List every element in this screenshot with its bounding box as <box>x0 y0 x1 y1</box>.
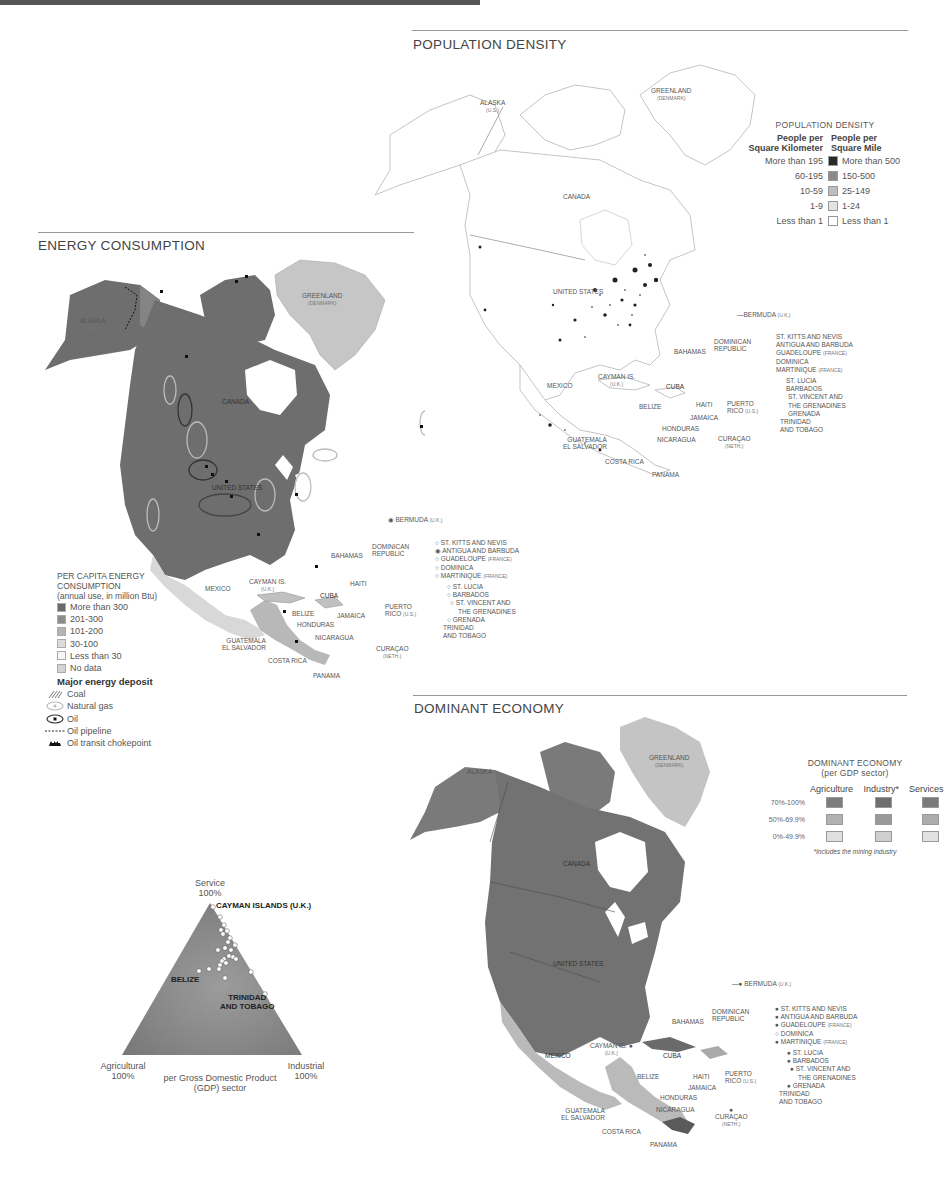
label-greenland: GREENLAND(DENMARK) <box>302 292 342 307</box>
label-dominican-republic: DOMINICANREPUBLIC <box>372 543 409 557</box>
label-united-states: UNITED STATES <box>553 288 603 295</box>
label-canada: CANADA <box>222 398 249 405</box>
legend-row: More than 300 <box>57 601 217 613</box>
label-puerto-rico: PUERTORICO (U.S.) <box>727 400 758 415</box>
population-density-legend: POPULATION DENSITY People perSquare Kilo… <box>735 120 915 228</box>
label-honduras: HONDURAS <box>662 425 699 432</box>
label-guatemala: GUATEMALAEL SALVADOR <box>561 1107 605 1121</box>
label-canada: CANADA <box>563 860 590 867</box>
legend-row: 0%-49.9% <box>760 828 949 845</box>
natural-gas-icon <box>45 701 65 711</box>
label-united-states: UNITED STATES <box>212 484 262 491</box>
legend-row: 10-5925-149 <box>735 183 915 198</box>
label-curacao: ●CURAÇAO(NETH.) <box>715 1106 748 1128</box>
label-guatemala: GUATEMALAEL SALVADOR <box>563 436 607 450</box>
label-bermuda: —BERMUDA (U.K.) <box>737 311 791 319</box>
chokepoint-icon <box>45 739 65 747</box>
label-belize: BELIZE <box>637 1073 659 1080</box>
label-jamaica: JAMAICA <box>337 612 365 619</box>
pipeline-icon <box>45 728 65 734</box>
label-belize: BELIZE <box>292 610 314 617</box>
callout-belize: BELIZE <box>171 975 199 984</box>
label-greenland: GREENLAND(DENMARK) <box>651 87 691 102</box>
legend-row: 101-200 <box>57 625 217 637</box>
label-jamaica: JAMAICA <box>690 414 718 421</box>
label-cuba: CUBA <box>663 1052 681 1059</box>
label-canada: CANADA <box>563 193 590 200</box>
label-haiti: HAITI <box>693 1073 710 1080</box>
label-jamaica: JAMAICA <box>688 1084 716 1091</box>
legend-row: 201-300 <box>57 613 217 625</box>
apex-agricultural-label: Agricultural100% <box>88 1061 158 1081</box>
label-cuba: CUBA <box>666 383 684 390</box>
label-puerto-rico: PUERTORICO (U.S.) <box>725 1070 756 1085</box>
legend-row: 1-91-24 <box>735 198 915 213</box>
section-divider <box>412 30 908 31</box>
legend-headers: People perSquare Kilometer People perSqu… <box>735 133 915 153</box>
callout-cayman-islands: CAYMAN ISLANDS (U.K.) <box>216 901 311 910</box>
label-bahamas: BAHAMAS <box>672 1018 704 1025</box>
legend-row: 60-195150-500 <box>735 168 915 183</box>
label-honduras: HONDURAS <box>297 621 334 628</box>
section-divider <box>38 232 414 233</box>
legend-row: Less than 1Less than 1 <box>735 213 915 228</box>
label-haiti: HAITI <box>696 401 713 408</box>
legend-subtitle: (annual use, in million Btu) <box>57 591 217 601</box>
label-puerto-rico: PUERTORICO (U.S.) <box>385 603 416 618</box>
label-mexico: MEXICO <box>545 1052 571 1059</box>
label-dominican-republic: DOMINICANREPUBLIC <box>712 1008 749 1022</box>
legend-row: 50%-69.9% <box>760 811 949 828</box>
label-belize: BELIZE <box>639 403 661 410</box>
legend-footnote: *Includes the mining industry <box>760 848 949 855</box>
label-panama: PANAMA <box>652 471 679 478</box>
legend-row: Less than 30 <box>57 650 217 662</box>
section-divider <box>413 695 907 696</box>
label-alaska: ALASKA(U.S.) <box>480 99 505 114</box>
legend-row: No data <box>57 662 217 674</box>
label-bahamas: BAHAMAS <box>331 552 363 559</box>
label-eastern-caribbean: ST. KITTS AND NEVIS ANTIGUA AND BARBUDA … <box>776 333 853 434</box>
legend-title: PER CAPITA ENERGYCONSUMPTION <box>57 571 217 591</box>
label-eastern-caribbean: ● ST. KITTS AND NEVIS ● ANTIGUA AND BARB… <box>775 1005 857 1106</box>
legend-row: 30-100 <box>57 638 217 650</box>
label-bermuda: —● BERMUDA (U.K.) <box>732 980 791 988</box>
label-cayman: CAYMAN IS. ●(U.K.) <box>590 1042 633 1057</box>
label-bahamas: BAHAMAS <box>674 348 706 355</box>
label-costa-rica: COSTA RICA <box>605 458 644 465</box>
label-united-states: UNITED STATES <box>553 960 603 967</box>
coal-hatch-icon <box>45 690 65 699</box>
population-density-title: POPULATION DENSITY <box>413 37 567 52</box>
label-costa-rica: COSTA RICA <box>268 657 307 664</box>
label-cuba: CUBA <box>320 592 338 599</box>
legend-row-natural-gas: Natural gas <box>45 700 217 712</box>
label-honduras: HONDURAS <box>660 1094 697 1101</box>
gdp-sector-ternary-diagram: Service100% Agricultural100% Industrial1… <box>80 870 340 1100</box>
population-density-map <box>370 55 790 485</box>
legend-row-chokepoint: Oil transit chokepoint <box>45 737 217 749</box>
label-curacao: CURAÇAO(NETH.) <box>718 435 751 450</box>
label-eastern-caribbean: ○ ST. KITTS AND NEVIS ◉ ANTIGUA AND BARB… <box>435 539 519 640</box>
label-nicaragua: NICARAGUA <box>315 634 354 641</box>
label-alaska: ALASKA(U.S.) <box>467 768 492 783</box>
label-panama: PANAMA <box>650 1141 677 1148</box>
energy-consumption-title: ENERGY CONSUMPTION <box>38 238 205 253</box>
legend-row-coal: Coal <box>45 688 217 700</box>
label-guatemala: GUATEMALAEL SALVADOR <box>222 637 266 651</box>
label-panama: PANAMA <box>313 672 340 679</box>
dominant-economy-map <box>400 712 760 1172</box>
legend-row-oil-pipeline: Oil pipeline <box>45 725 217 737</box>
apex-service-label: Service100% <box>190 878 230 898</box>
label-nicaragua: NICARAGUA <box>656 1106 695 1113</box>
label-nicaragua: NICARAGUA <box>657 436 696 443</box>
label-cayman: CAYMAN IS.(U.K.) <box>249 578 286 593</box>
legend-title: POPULATION DENSITY <box>735 120 915 130</box>
label-haiti: HAITI <box>350 580 367 587</box>
ternary-caption: per Gross Domestic Product(GDP) sector <box>150 1073 290 1093</box>
legend-row: 70%-100% <box>760 794 949 811</box>
deposit-legend-title: Major energy deposit <box>57 676 217 687</box>
top-header-bar <box>0 0 480 5</box>
legend-title: DOMINANT ECONOMY(per GDP sector) <box>760 758 949 778</box>
energy-consumption-legend: PER CAPITA ENERGYCONSUMPTION (annual use… <box>57 571 217 749</box>
label-alaska: ALASKA(U.S.) <box>80 317 105 332</box>
legend-row-oil: Oil <box>45 713 217 725</box>
